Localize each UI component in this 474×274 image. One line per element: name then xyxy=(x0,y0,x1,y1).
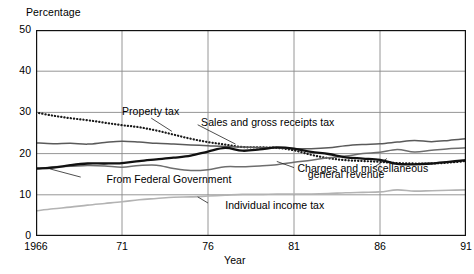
y-tick-label: 20 xyxy=(4,147,31,159)
y-tick-label: 50 xyxy=(4,23,31,35)
y-tick-label: 30 xyxy=(4,105,31,117)
x-tick-label: 1966 xyxy=(11,240,61,252)
series-annotation: From Federal Government xyxy=(107,173,232,185)
chart-figure: Percentage Year 01020304050 196671768186… xyxy=(0,0,474,274)
y-tick-label: 40 xyxy=(4,64,31,76)
x-axis-title: Year xyxy=(224,254,246,266)
series-line xyxy=(36,139,466,149)
x-tick-label: 91 xyxy=(441,240,474,252)
series-annotation: Individual income tax xyxy=(225,199,324,211)
series-annotation: general revenue xyxy=(308,168,385,180)
x-tick-label: 76 xyxy=(183,240,233,252)
y-tick-label: 10 xyxy=(4,188,31,200)
series-annotation: Property tax xyxy=(122,105,179,117)
y-axis-title: Percentage xyxy=(26,6,81,18)
x-tick-label: 86 xyxy=(355,240,405,252)
series-annotation: Sales and gross receipts tax xyxy=(201,116,334,128)
x-tick-label: 71 xyxy=(97,240,147,252)
x-tick-label: 81 xyxy=(269,240,319,252)
